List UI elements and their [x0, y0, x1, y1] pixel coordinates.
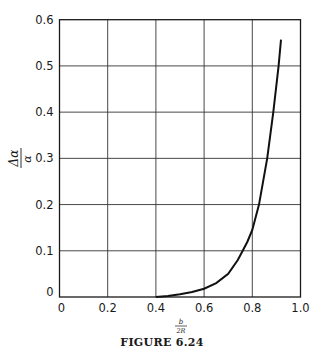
- figure-caption: FIGURE 6.24: [0, 336, 324, 349]
- chart: 00.20.40.60.81.0 00.10.20.30.40.50.6 Δα …: [0, 0, 324, 355]
- x-tick-labels: 00.20.40.60.81.0: [58, 301, 310, 315]
- x-tick-label: 0.2: [99, 301, 117, 315]
- y-axis-label: Δα α: [7, 148, 34, 168]
- y-label-numerator: Δα: [7, 150, 21, 168]
- y-tick-label: 0.6: [35, 13, 53, 27]
- x-tick-label: 0.6: [195, 301, 213, 315]
- x-tick-label: 1.0: [291, 301, 309, 315]
- grid: [60, 20, 301, 297]
- y-tick-label: 0.3: [35, 151, 53, 165]
- x-axis-label: b 2R: [175, 318, 187, 335]
- y-tick-label: 0: [46, 285, 53, 299]
- y-tick-label: 0.1: [35, 244, 53, 258]
- data-curve: [156, 40, 281, 297]
- y-tick-label: 0.5: [35, 59, 53, 73]
- x-label-denominator: 2R: [175, 327, 185, 335]
- x-tick-label: 0.4: [147, 301, 165, 315]
- y-tick-label: 0.2: [35, 198, 53, 212]
- y-tick-label: 0.4: [35, 105, 53, 119]
- x-tick-label: 0: [58, 301, 65, 315]
- y-label-denominator: α: [21, 155, 34, 163]
- x-tick-label: 0.8: [243, 301, 261, 315]
- y-tick-labels: 00.10.20.30.40.50.6: [35, 13, 53, 299]
- x-label-numerator: b: [179, 318, 184, 326]
